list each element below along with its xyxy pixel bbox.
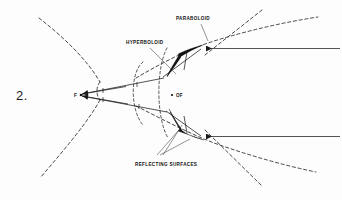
reflecting-surface-upper-primary xyxy=(178,45,203,57)
reflected-ray-lower-to-focus-tail xyxy=(82,96,128,104)
left-conic-curve-upper xyxy=(39,18,100,82)
label-focus-secondary: OF xyxy=(176,93,183,98)
reflecting-surface-lower-secondary xyxy=(169,109,182,130)
left-conic-curve-lower xyxy=(40,100,100,178)
inner-hyperbola-left-branch xyxy=(133,62,143,125)
paraboloid-arc-upper xyxy=(136,17,318,78)
label-hyperboloid: HYPERBOLOID xyxy=(126,40,164,45)
optical-diagram-figure: 2. PARABOLOID HYPERBOLOID REFLECTING SUR… xyxy=(0,0,342,200)
focus-point-primary xyxy=(80,94,83,97)
figure-number: 2. xyxy=(16,88,28,103)
leader-paraboloid xyxy=(201,24,208,41)
reflecting-surface-lower-primary xyxy=(178,129,204,140)
leader-reflecting-1 xyxy=(157,131,178,155)
leader-reflecting-3 xyxy=(163,125,182,155)
label-reflecting-surfaces: REFLECTING SURFACES xyxy=(135,162,197,167)
asymptote-lower-steep xyxy=(205,130,262,186)
diagram-canvas: 2. PARABOLOID HYPERBOLOID REFLECTING SUR… xyxy=(0,0,342,200)
reflecting-surface-upper-secondary xyxy=(167,55,181,77)
leader-hyperboloid xyxy=(150,48,176,74)
focus-point-secondary xyxy=(171,94,173,96)
label-focus-primary: F xyxy=(74,93,77,98)
reflected-ray-upper-to-focus-tail xyxy=(82,87,126,95)
label-paraboloid: PARABOLOID xyxy=(176,16,210,21)
